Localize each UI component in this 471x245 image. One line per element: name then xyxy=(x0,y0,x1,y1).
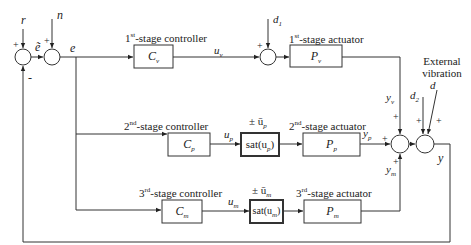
cv-block-label: Cv xyxy=(134,49,173,68)
summing-junction-outputs xyxy=(391,135,409,153)
pm-block-label: Pm xyxy=(304,204,361,223)
pp-block-label: Pp xyxy=(303,137,360,156)
uv-signal-label: uv xyxy=(214,44,223,61)
error-tilde-label: ẽ xyxy=(35,41,40,53)
summing-junction-noise xyxy=(44,49,60,65)
sat-p-limit-label: ± ūp xyxy=(249,115,267,132)
stage3-actuator-caption: 3rd-stage actuator xyxy=(296,184,372,199)
stage3-controller-caption: 3rd-stage controller xyxy=(139,184,222,199)
sign-plus-yv: + xyxy=(393,112,399,122)
d2-input-label: d2 xyxy=(410,89,419,106)
sat-m-limit-label: ± ūm xyxy=(252,184,271,201)
error-label: e xyxy=(70,42,75,54)
yv-signal-label: yv xyxy=(386,91,394,108)
sign-plus-d2: + xyxy=(416,116,422,126)
summing-junction-reference xyxy=(15,49,31,65)
sign-plus-n: + xyxy=(44,36,50,46)
ym-signal-label: ym xyxy=(386,163,396,180)
yp-signal-label: yp xyxy=(363,127,371,144)
d1-input-label: d1 xyxy=(273,13,282,30)
cm-block-label: Cm xyxy=(162,204,202,223)
sat-m-block-label: sat(um) xyxy=(250,205,283,221)
up-signal-label: up xyxy=(224,128,233,145)
external-vibration-label: d xyxy=(430,79,436,91)
stage2-controller-caption: 2nd-stage controller xyxy=(124,117,208,132)
pv-block-label: Pv xyxy=(290,49,342,68)
sign-plus-r: + xyxy=(13,40,19,50)
summing-junction-d1 xyxy=(260,49,276,65)
cp-block-label: Cp xyxy=(168,137,210,156)
reference-input-label: r xyxy=(21,14,26,26)
summing-junction-disturbance xyxy=(416,135,434,153)
external-vibration-caption-1: External xyxy=(417,55,467,67)
sign-minus-feedback: - xyxy=(28,73,32,83)
sat-p-block-label: sat(up) xyxy=(241,138,279,155)
sign-plus-yp: + xyxy=(382,134,388,144)
sign-plus-uv: + xyxy=(257,41,263,51)
external-vibration-caption-2: vibration xyxy=(417,67,467,79)
stage1-controller-caption: 1st-stage controller xyxy=(125,29,207,44)
output-y-label: y xyxy=(438,152,443,164)
sign-plus-d: + xyxy=(436,116,442,126)
um-signal-label: um xyxy=(228,195,239,212)
noise-input-label: n xyxy=(57,9,63,21)
stage2-actuator-caption: 2nd-stage actuator xyxy=(289,117,366,132)
stage1-actuator-caption: 1st-stage actuator xyxy=(289,30,364,45)
